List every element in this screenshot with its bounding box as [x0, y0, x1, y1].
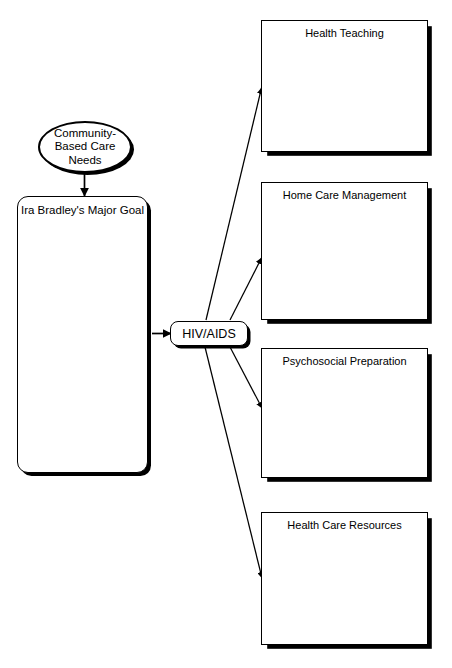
edge-center-to-health-resources: [205, 347, 262, 578]
node-ira-bradley-major-goal[interactable]: Ira Bradley's Major Goal: [17, 196, 148, 473]
edge-center-to-home-care: [230, 258, 262, 320]
node-label: Health Care Resources: [262, 513, 427, 532]
node-label: HIV/AIDS: [182, 327, 236, 341]
node-community-based-care-needs[interactable]: Community-Based Care Needs: [38, 121, 132, 173]
node-label: Home Care Management: [262, 183, 427, 202]
edge-center-to-health-teaching: [206, 88, 262, 320]
node-label: Ira Bradley's Major Goal: [18, 197, 147, 218]
node-hiv-aids[interactable]: HIV/AIDS: [170, 321, 248, 346]
node-health-care-resources[interactable]: Health Care Resources: [261, 512, 428, 645]
node-label: Psychosocial Preparation: [262, 349, 427, 368]
node-health-teaching[interactable]: Health Teaching: [261, 20, 428, 152]
node-home-care-management[interactable]: Home Care Management: [261, 182, 428, 320]
concept-map-canvas: Community-Based Care Needs Ira Bradley's…: [0, 0, 452, 668]
node-label: Community-Based Care Needs: [40, 127, 130, 168]
node-label: Health Teaching: [262, 21, 427, 40]
node-psychosocial-preparation[interactable]: Psychosocial Preparation: [261, 348, 428, 478]
edge-center-to-psychosocial: [230, 347, 262, 408]
